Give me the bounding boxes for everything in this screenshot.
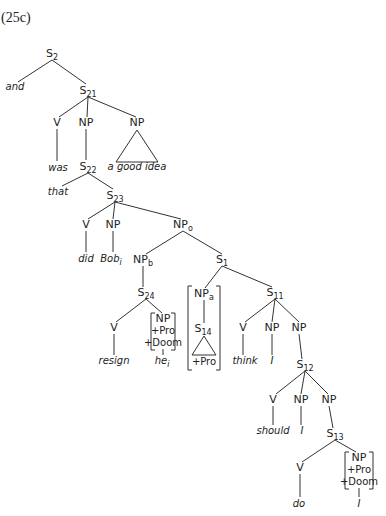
node-s1: S1	[216, 253, 228, 268]
node-np8: NP	[322, 393, 337, 406]
node-s23: S23	[106, 189, 123, 204]
tree-branch	[299, 334, 302, 359]
terminal-word-i3: I	[358, 498, 361, 509]
feature-pd1_doom: +Doom	[144, 337, 182, 348]
node-v1: V	[53, 116, 61, 129]
node-s24: S24	[137, 286, 154, 301]
tree-branch	[116, 299, 146, 322]
terminal-word-should: should	[256, 425, 290, 436]
terminal-word-bob: Bobi	[100, 253, 122, 267]
tree-branch	[115, 202, 181, 219]
tree-branch	[146, 231, 183, 254]
tree-branch	[305, 371, 328, 394]
tree-branch	[59, 97, 88, 117]
tree-branch	[329, 406, 333, 428]
tree-branch	[183, 231, 222, 254]
tree-branch	[88, 202, 115, 219]
tree-branch	[276, 371, 305, 394]
tree-branches	[18, 60, 359, 497]
node-v3: V	[110, 321, 118, 334]
node-npa: NPa	[194, 287, 214, 302]
triangle-abbreviation	[116, 130, 158, 162]
terminal-word-he: hei	[155, 355, 171, 369]
terminal-word-did: did	[78, 253, 94, 264]
tree-branch	[222, 266, 272, 287]
feature-pd2_doom: +Doom	[340, 476, 378, 487]
node-np5: NP	[265, 321, 280, 334]
tree-node-labels: S2andS21VNPNPwasS22a good ideathatS23VNP…	[6, 47, 378, 509]
node-nppd2: NP	[352, 451, 367, 464]
terminal-word-resign: resign	[99, 355, 130, 366]
node-npo: NPo	[173, 218, 193, 233]
feature-s14_pro: +Pro	[192, 356, 216, 367]
node-s11: S11	[266, 286, 283, 301]
node-np3: NP	[106, 218, 121, 231]
node-v4: V	[239, 321, 247, 334]
node-v6: V	[296, 461, 304, 474]
tree-branch	[88, 97, 136, 117]
node-np2: NP	[130, 116, 145, 129]
feature-pd1_pro: +Pro	[151, 325, 175, 336]
terminal-word-agoodidea: a good idea	[108, 161, 167, 172]
node-s14: S14	[194, 322, 211, 337]
tree-branch	[205, 266, 222, 288]
terminal-word-do: do	[293, 498, 305, 509]
node-s21: S21	[79, 84, 96, 99]
node-s22: S22	[79, 160, 96, 175]
feature-pd2_pro: +Pro	[347, 464, 371, 475]
tree-branch	[87, 97, 88, 117]
feature-bracket-right	[216, 286, 220, 370]
terminal-word-that: that	[48, 186, 69, 197]
node-s2: S2	[46, 47, 58, 62]
node-v2: V	[82, 218, 90, 231]
tree-branch	[301, 371, 305, 394]
terminal-word-and: and	[6, 81, 25, 92]
node-np6: NP	[292, 321, 307, 334]
tree-branch	[245, 299, 275, 322]
tree-branch	[275, 299, 299, 322]
tree-branch	[113, 202, 115, 219]
tree-branch	[18, 60, 52, 82]
tree-branch	[146, 299, 162, 313]
terminal-word-think: think	[232, 355, 258, 366]
node-npb: NPb	[133, 253, 153, 268]
tree-branch	[62, 173, 88, 186]
node-s12: S12	[296, 358, 313, 373]
terminal-word-i1: I	[271, 355, 274, 366]
terminal-word-was: was	[48, 162, 68, 173]
node-s13: S13	[326, 427, 343, 442]
tree-branch	[88, 173, 113, 189]
node-np1: NP	[79, 116, 94, 129]
tree-branch	[52, 60, 86, 84]
tree-branch	[272, 299, 275, 322]
node-np7: NP	[294, 393, 309, 406]
tree-branch	[302, 440, 335, 462]
terminal-word-i2: I	[301, 425, 304, 436]
syntax-tree-diagram: S2andS21VNPNPwasS22a good ideathatS23VNP…	[0, 0, 386, 516]
node-v5: V	[269, 393, 277, 406]
triangle-abbreviation	[192, 336, 216, 355]
node-nppd1: NP	[156, 312, 171, 325]
